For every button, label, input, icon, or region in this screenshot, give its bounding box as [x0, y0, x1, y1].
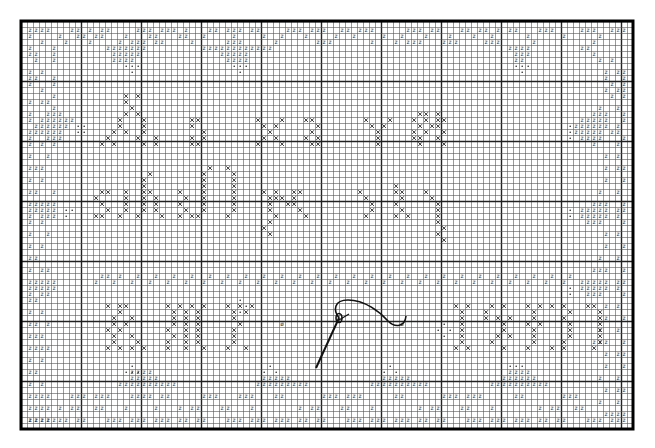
lettering-row2-stitch: [442, 238, 446, 242]
svg-text:z: z: [118, 272, 122, 279]
lettering-row3-stitch: [130, 316, 134, 320]
svg-text:z: z: [64, 38, 68, 45]
lettering-row3-stitch: [172, 334, 176, 338]
svg-text:z: z: [490, 38, 494, 45]
svg-text:z: z: [490, 416, 494, 423]
svg-text:z: z: [436, 26, 440, 33]
svg-text:z: z: [580, 212, 584, 219]
svg-text:z: z: [508, 278, 512, 285]
lettering-row1-stitch: [316, 124, 320, 128]
lettering-row3-stitch: [250, 304, 254, 308]
svg-text:z: z: [46, 290, 50, 297]
svg-text:z: z: [232, 416, 236, 423]
svg-text:z: z: [598, 134, 602, 141]
lettering-row2-stitch: [274, 214, 278, 218]
svg-text:z: z: [352, 272, 356, 279]
lettering-row3-stitch: [562, 316, 566, 320]
svg-text:z: z: [244, 272, 248, 279]
svg-text:z: z: [268, 44, 272, 51]
lettering-row3-stitch: [532, 310, 536, 314]
svg-text:z: z: [580, 284, 584, 291]
lettering-row3-stitch: [538, 304, 542, 308]
lettering-row2-stitch: [436, 214, 440, 218]
lettering-row3-stitch: [184, 310, 188, 314]
svg-text:z: z: [616, 350, 620, 357]
svg-text:z: z: [598, 398, 602, 405]
svg-text:z: z: [442, 38, 446, 45]
svg-text:z: z: [424, 272, 428, 279]
svg-text:z: z: [40, 392, 44, 399]
lettering-row2-stitch: [202, 184, 206, 188]
svg-text:z: z: [256, 278, 260, 285]
svg-text:z: z: [28, 230, 32, 237]
svg-text:z: z: [322, 392, 326, 399]
svg-text:z: z: [544, 416, 548, 423]
svg-text:z: z: [112, 278, 116, 285]
svg-text:z: z: [274, 278, 278, 285]
svg-text:z: z: [256, 380, 260, 387]
svg-text:z: z: [400, 380, 404, 387]
lettering-row1-stitch: [142, 118, 146, 122]
lettering-row2-stitch: [292, 196, 296, 200]
svg-text:z: z: [604, 386, 608, 393]
svg-text:z: z: [58, 32, 62, 39]
svg-text:z: z: [538, 380, 542, 387]
svg-text:z: z: [196, 404, 200, 411]
lettering-row2-stitch: [202, 202, 206, 206]
lettering-row2-stitch: [262, 190, 266, 194]
svg-text:z: z: [94, 32, 98, 39]
lettering-row1-stitch: [418, 142, 422, 146]
lettering-row3-stitch: [490, 340, 494, 344]
svg-text:z: z: [418, 380, 422, 387]
svg-text:z: z: [616, 140, 620, 147]
lettering-row3-stitch: [526, 322, 530, 326]
svg-text:z: z: [286, 416, 290, 423]
svg-text:z: z: [232, 56, 236, 63]
svg-text:z: z: [346, 404, 350, 411]
lettering-row3-stitch: [244, 346, 248, 350]
svg-text:z: z: [538, 416, 542, 423]
lettering-row3-stitch: [568, 328, 572, 332]
svg-text:z: z: [46, 404, 50, 411]
svg-text:z: z: [40, 332, 44, 339]
svg-text:z: z: [202, 32, 206, 39]
svg-text:z: z: [604, 164, 608, 171]
svg-text:z: z: [286, 26, 290, 33]
svg-text:z: z: [616, 86, 620, 93]
svg-text:z: z: [28, 356, 32, 363]
lettering-row3-stitch: [466, 304, 470, 308]
lettering-row2-stitch: [142, 184, 146, 188]
lettering-row2-stitch: [232, 202, 236, 206]
lettering-row3-stitch: [532, 316, 536, 320]
lettering-row2-stitch: [268, 232, 272, 236]
lettering-row2-stitch: [154, 196, 158, 200]
lettering-row1-stitch: [274, 136, 278, 140]
lettering-row2-stitch: [148, 172, 152, 176]
svg-text:z: z: [46, 392, 50, 399]
svg-text:z: z: [28, 116, 32, 123]
svg-text:z: z: [592, 218, 596, 225]
lettering-row1-stitch: [316, 142, 320, 146]
lettering-row3-stitch: [598, 310, 602, 314]
svg-text:z: z: [604, 230, 608, 237]
svg-text:z: z: [586, 218, 590, 225]
lettering-row1-stitch: [376, 136, 380, 140]
svg-text:z: z: [376, 416, 380, 423]
svg-text:z: z: [292, 380, 296, 387]
svg-text:z: z: [166, 392, 170, 399]
lettering-row2-stitch: [304, 214, 308, 218]
lettering-row3-stitch: [112, 316, 116, 320]
svg-text:z: z: [550, 404, 554, 411]
svg-text:z: z: [274, 392, 278, 399]
svg-text:z: z: [130, 380, 134, 387]
svg-text:z: z: [334, 272, 338, 279]
svg-text:z: z: [34, 74, 38, 81]
svg-text:z: z: [172, 272, 176, 279]
svg-text:z: z: [622, 386, 626, 393]
lettering-row2-stitch: [142, 202, 146, 206]
svg-text:z: z: [40, 68, 44, 75]
svg-text:z: z: [448, 392, 452, 399]
svg-text:z: z: [604, 176, 608, 183]
svg-text:z: z: [508, 26, 512, 33]
svg-text:z: z: [598, 416, 602, 423]
